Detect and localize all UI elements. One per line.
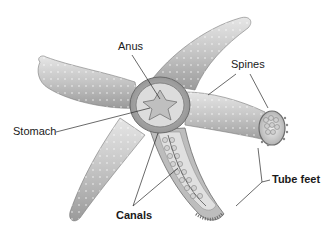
leader-spines-a: [208, 74, 236, 95]
leader-spines-b: [250, 74, 268, 108]
label-stomach: Stomach: [13, 126, 56, 137]
label-spines: Spines: [231, 59, 265, 70]
arm-right-cut: [185, 92, 288, 146]
leader-tube-feet-b: [258, 148, 262, 182]
arm-upper-left: [38, 56, 140, 108]
arm-lower-opened: [150, 128, 224, 220]
leader-tube-feet-a: [236, 180, 270, 206]
central-disc: [130, 77, 190, 133]
label-tube-feet: Tube feet: [272, 174, 320, 185]
starfish-diagram: [0, 0, 328, 237]
label-canals: Canals: [116, 210, 152, 221]
label-anus: Anus: [118, 41, 143, 52]
